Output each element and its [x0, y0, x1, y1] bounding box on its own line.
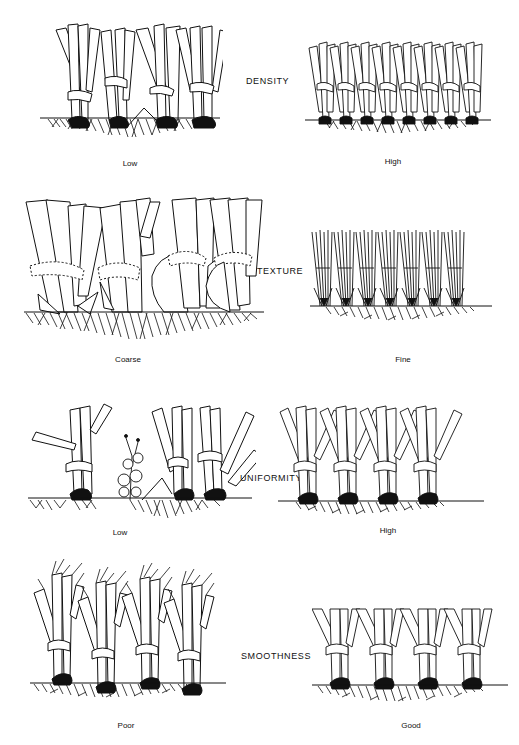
caption-smoothness-poor: Poor [118, 721, 135, 730]
density-high-illustration [305, 40, 495, 140]
attribute-label-texture: TEXTURE [257, 266, 303, 276]
caption-texture-fine: Fine [395, 355, 411, 364]
caption-uniformity-low: Low [113, 528, 128, 537]
smoothness-poor-illustration [30, 555, 230, 715]
caption-density-high: High [385, 157, 401, 166]
caption-texture-coarse: Coarse [115, 355, 141, 364]
row-smoothness: SMOOTHNESS Poor [0, 555, 519, 745]
row-density: DENSITY [0, 0, 519, 180]
smoothness-good-illustration [312, 607, 512, 717]
caption-uniformity-high: High [380, 526, 396, 535]
texture-fine-illustration [310, 228, 495, 338]
caption-density-low: Low [123, 159, 138, 168]
row-texture: TEXTURE Coars [0, 180, 519, 380]
uniformity-high-illustration [278, 404, 488, 524]
uniformity-low-illustration [26, 400, 256, 540]
attribute-label-density: DENSITY [246, 76, 289, 86]
density-low-illustration [38, 20, 223, 150]
caption-smoothness-good: Good [401, 721, 421, 730]
texture-coarse-illustration [20, 196, 265, 356]
attribute-label-smoothness: SMOOTHNESS [241, 651, 311, 661]
row-uniformity: UNIFORMITY Low H [0, 380, 519, 540]
